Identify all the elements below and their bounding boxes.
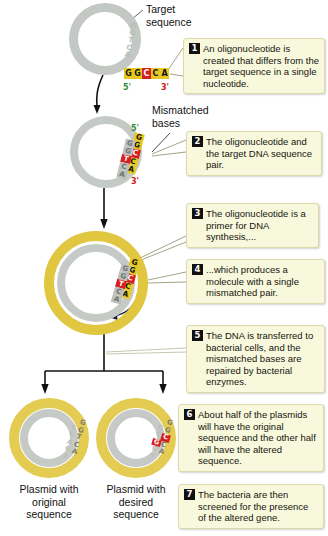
step-text: An oligonucleotide is created that diffe… [203,43,319,89]
oligo-5prime-label: 5' [123,83,131,92]
label-target-sequence: Target sequence [146,3,192,28]
step-text: The bacteria are then screened for the p… [198,489,318,524]
leader-step5-b [106,352,186,354]
leader-step3-a [140,236,186,258]
plasmid-paired-5prime-label: 5' [131,124,139,133]
leader-step1-a [168,48,183,70]
oligo-3prime-label: 3' [161,83,169,92]
leader-mismatched-bases [152,133,170,152]
step-badge: 6 [184,409,195,420]
leader-step4-b [148,282,186,283]
step-badge: 3 [192,208,203,219]
base: G [133,68,142,79]
label-plasmid-desired: Plasmid with desired sequence [90,483,182,521]
leader-step2-b [152,152,186,156]
step-badge: 1 [189,43,200,54]
step-badge: 7 [184,489,195,500]
arrow-step2-head [100,219,107,229]
leader-step4-a [148,272,186,280]
figure-canvas: G G T C A Target sequence 1 An oligonucl… [0,0,328,536]
base: A [160,68,169,79]
callout-step-3[interactable]: 3 The oligonucleotide is a primer for DN… [186,203,319,248]
step-text: The oligonucleotide and the target DNA s… [206,136,316,171]
arrow-step1-path [97,75,103,108]
step-text: ...which produces a molecule with a sing… [206,264,319,299]
step-text: The oligonucleotide is a primer for DNA … [206,208,313,243]
leader-step5-a [106,348,186,352]
callout-step-5[interactable]: 5 The DNA is transferred to bacterial ce… [186,325,325,393]
callout-step-4[interactable]: 4 ...which produces a molecule with a si… [186,259,325,304]
step-badge: 4 [192,264,203,275]
plasmid-paired-3prime-label: 3' [131,177,139,186]
step-badge: 2 [192,136,203,147]
arrow-split-right-head [159,384,166,394]
arrow-split-left-head [41,384,48,394]
base: C [151,68,160,79]
arrow-step1-head [94,105,101,114]
base: A [122,51,132,60]
callout-step-7[interactable]: 7 The bacteria are then screened for the… [178,484,324,529]
leader-step1-b [170,74,183,76]
callout-step-1[interactable]: 1 An oligonucleotide is created that dif… [183,38,325,94]
label-mismatched-bases: Mismatched bases [152,104,209,129]
callout-step-6[interactable]: 6 About half of the plasmids will have t… [178,404,324,472]
label-plasmid-original: Plasmid with original sequence [3,483,95,521]
leader-step2-a [152,140,186,154]
base-mutant: C [142,68,151,79]
step-text: About half of the plasmids will have the… [198,409,318,467]
callout-step-2[interactable]: 2 The oligonucleotide and the target DNA… [186,131,322,176]
leader-step3-b [141,242,186,260]
oligonucleotide-strip: G G C C A [124,68,169,79]
step-badge: 5 [192,330,203,341]
step-text: The DNA is transferred to bacterial cell… [206,330,319,388]
base: G [124,68,133,79]
